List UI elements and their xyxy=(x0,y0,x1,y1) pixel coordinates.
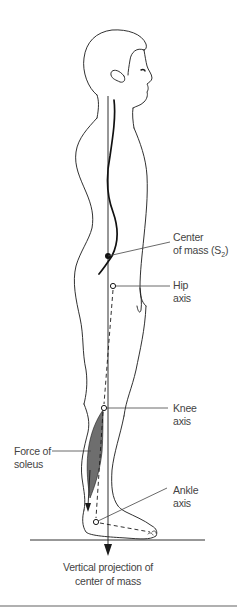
center-of-mass-dot xyxy=(105,253,111,259)
soleus-force-arrowhead xyxy=(85,503,91,512)
ankle-axis-label-line1: Ankle xyxy=(173,484,198,497)
bottom-divider xyxy=(0,605,237,607)
knee-axis-marker xyxy=(101,405,106,410)
standing-figure-diagram xyxy=(0,0,237,611)
ankle-axis-marker xyxy=(93,519,98,524)
hip-axis-marker xyxy=(110,283,115,288)
knee-axis-label-line2: axis xyxy=(173,415,197,428)
knee-axis-label-line1: Knee xyxy=(173,402,197,415)
center-of-mass-label-line1: Center xyxy=(173,231,228,244)
hip-axis-label: Hip axis xyxy=(173,279,191,305)
ankle-axis-label-line2: axis xyxy=(173,497,198,510)
force-of-soleus-label-line1: Force of xyxy=(14,445,51,458)
force-of-soleus-label-line2: soleus xyxy=(14,458,51,471)
center-of-mass-label: Center of mass (S2) xyxy=(173,231,228,257)
hip-axis-label-line1: Hip xyxy=(173,279,191,292)
knee-axis-label: Knee axis xyxy=(173,402,197,428)
ankle-axis-label: Ankle axis xyxy=(173,484,198,510)
hip-axis-label-line2: axis xyxy=(173,292,191,305)
caption-line2: center of mass xyxy=(40,574,176,588)
caption-line1: Vertical projection of xyxy=(40,560,176,574)
vertical-projection-caption: Vertical projection of center of mass xyxy=(40,560,176,588)
center-of-mass-label-line2: of mass (S2) xyxy=(173,244,228,257)
vertical-projection-arrowhead xyxy=(104,544,112,556)
force-of-soleus-label: Force of soleus xyxy=(14,445,51,471)
